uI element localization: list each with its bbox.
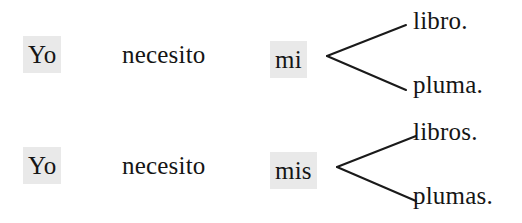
diagram-row: Yo necesito mi libro. pluma.	[0, 0, 522, 111]
branch-connector-lines	[318, 14, 414, 98]
branch-line-upper	[337, 136, 416, 167]
branch-line-lower	[337, 167, 416, 201]
branch-noun-plural-2: plumas.	[413, 181, 493, 211]
branch-line-lower	[327, 56, 406, 90]
branch-noun-plural-1: libros.	[413, 117, 478, 147]
subject-pronoun: Yo	[23, 147, 61, 184]
sentence-branch-diagram: Yo necesito mi libro. pluma. Yo necesito…	[0, 0, 522, 223]
diagram-row: Yo necesito mis libros. plumas.	[0, 111, 522, 222]
branch-connector-lines	[328, 125, 424, 209]
branch-line-upper	[327, 25, 406, 56]
possessive-adjective: mi	[270, 41, 307, 78]
subject-pronoun: Yo	[23, 36, 61, 73]
verb: necesito	[122, 40, 206, 70]
branch-noun-singular-1: libro.	[413, 6, 468, 36]
possessive-adjective: mis	[270, 152, 317, 189]
branch-noun-singular-2: pluma.	[413, 70, 483, 100]
verb: necesito	[122, 151, 206, 181]
